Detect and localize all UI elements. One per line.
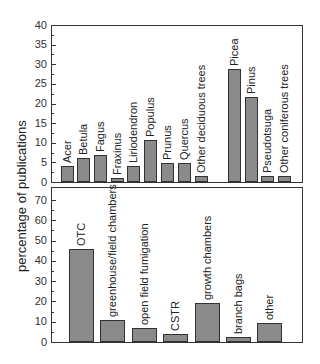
bar-label: Other deciduous trees	[196, 65, 207, 173]
bar-fagus	[94, 155, 107, 182]
bar-greenhouse-field-chambers	[100, 320, 125, 342]
bar-fraxinus	[111, 178, 124, 182]
bar-otc	[69, 249, 94, 342]
bar-label: Pinus	[246, 67, 257, 95]
bar-acer	[61, 166, 74, 182]
y-tick	[51, 281, 56, 282]
bar-label: Fagus	[95, 121, 106, 152]
y-tick-label: 35	[25, 39, 47, 50]
y-minor-tick	[51, 113, 54, 114]
y-tick	[51, 220, 56, 221]
y-minor-tick	[51, 133, 54, 134]
y-tick-label: 30	[25, 59, 47, 70]
y-tick	[51, 261, 56, 262]
bar-label: Quercus	[179, 119, 190, 161]
y-tick	[51, 84, 56, 85]
y-tick	[51, 123, 56, 124]
bar-pseudotsuga	[261, 176, 274, 182]
y-tick	[51, 162, 56, 163]
bar-label: Other coniferous trees	[279, 64, 290, 173]
y-minor-tick	[51, 153, 54, 154]
y-minor-tick	[51, 230, 54, 231]
y-minor-tick	[51, 251, 54, 252]
y-tick	[51, 342, 56, 343]
y-minor-tick	[51, 332, 54, 333]
y-tick-label: 0	[25, 177, 47, 188]
bar-pinus	[245, 97, 258, 182]
y-minor-tick	[51, 291, 54, 292]
bar-label: branch bags	[233, 273, 244, 334]
y-tick-label: 0	[25, 337, 47, 348]
y-tick	[51, 322, 56, 323]
y-minor-tick	[51, 172, 54, 173]
y-tick-label: 5	[25, 157, 47, 168]
bar-label: Pseudotsuga	[262, 109, 273, 173]
y-tick-label: 50	[25, 235, 47, 246]
bar-label: CSTR	[170, 301, 181, 331]
y-minor-tick	[51, 271, 54, 272]
y-tick-label: 40	[25, 255, 47, 266]
bar-label: Acer	[62, 141, 73, 164]
bar-label: OTC	[76, 222, 87, 245]
y-tick-label: 40	[25, 20, 47, 31]
y-tick-label: 10	[25, 137, 47, 148]
bar-label: open field fumigation	[139, 223, 150, 325]
y-tick	[51, 25, 56, 26]
y-tick-label: 70	[25, 195, 47, 206]
y-tick	[51, 200, 56, 201]
bar-picea	[228, 69, 241, 182]
bar-prunus	[161, 163, 174, 182]
bar-label: Prunus	[162, 125, 173, 160]
bar-label: greenhouse/field chambers	[107, 184, 118, 317]
y-tick-label: 25	[25, 78, 47, 89]
y-tick-label: 20	[25, 98, 47, 109]
y-tick	[51, 241, 56, 242]
bar-other-deciduous-trees	[195, 176, 208, 182]
y-tick	[51, 45, 56, 46]
bar-label: Picea	[229, 38, 240, 66]
bar-label: Fraxinus	[112, 133, 123, 175]
y-tick-label: 15	[25, 118, 47, 129]
bar-branch-bags	[226, 337, 251, 342]
y-minor-tick	[51, 210, 54, 211]
bar-quercus	[178, 163, 191, 182]
y-tick-label: 60	[25, 215, 47, 226]
y-tick-label: 30	[25, 276, 47, 287]
y-tick	[51, 182, 56, 183]
bar-growth-chambers	[195, 303, 220, 342]
bar-populus	[144, 140, 157, 182]
y-tick	[51, 301, 56, 302]
y-minor-tick	[51, 54, 54, 55]
y-minor-tick	[51, 312, 54, 313]
bar-label: Populus	[145, 97, 156, 137]
bar-open-field-fumigation	[132, 328, 157, 342]
y-tick	[51, 104, 56, 105]
y-minor-tick	[51, 94, 54, 95]
bar-liriodendron	[127, 166, 140, 182]
bar-cstr	[163, 334, 188, 342]
y-tick-label: 20	[25, 296, 47, 307]
y-tick	[51, 64, 56, 65]
bar-label: Betula	[78, 124, 89, 155]
bar-label: growth chambers	[202, 216, 213, 300]
bar-other	[257, 323, 282, 342]
bar-betula	[77, 158, 90, 182]
y-minor-tick	[51, 74, 54, 75]
bar-other-coniferous-trees	[278, 176, 291, 182]
y-tick	[51, 143, 56, 144]
bar-label: other	[264, 295, 275, 320]
bar-label: Liriodendron	[128, 102, 139, 163]
y-tick-label: 10	[25, 316, 47, 327]
y-minor-tick	[51, 35, 54, 36]
